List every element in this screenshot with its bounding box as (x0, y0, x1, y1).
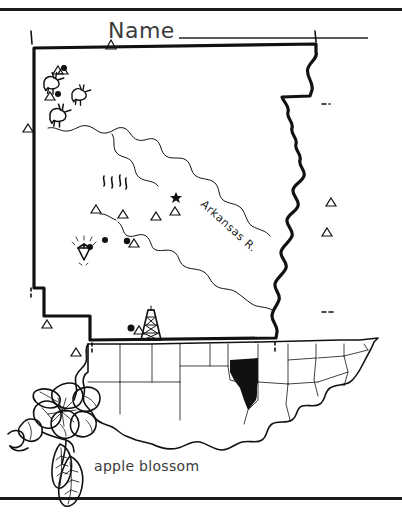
flower-caption: apple blossom (94, 458, 199, 474)
worksheet-page: Name Arkansas R. (0, 0, 402, 513)
flower-icon (34, 383, 100, 438)
apple-blossom-illustration (0, 0, 402, 513)
